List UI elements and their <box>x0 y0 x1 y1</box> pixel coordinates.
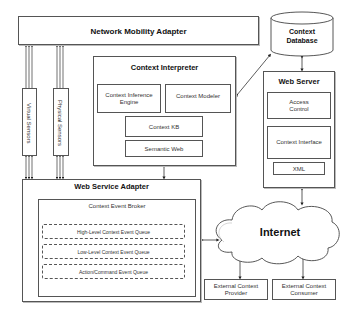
low-level-queue-label: Low-Level Context Event Queue <box>43 249 184 256</box>
web-service-adapter-title: Web Service Adapter <box>23 182 200 191</box>
context-kb: Context KB <box>125 116 203 137</box>
context-inference-engine: Context Inference Engine <box>97 84 161 113</box>
access-control: Access Control <box>267 92 331 119</box>
context-modeler: Context Modeler <box>165 84 231 113</box>
external-context-provider: External Context Provider <box>204 279 268 300</box>
network-mobility-adapter: Network Mobility Adapter <box>18 16 259 45</box>
external-context-provider-label: External Context Provider <box>211 283 261 297</box>
physical-sensors: Physical Sensors <box>53 88 69 156</box>
xml: XML <box>273 162 325 175</box>
context-inference-engine-label: Context Inference Engine <box>104 92 154 106</box>
context-interface-label: Context Interface <box>268 139 330 146</box>
virtual-sensors: Virtual Sensors <box>22 88 37 156</box>
physical-sensors-label: Physical Sensors <box>57 93 63 153</box>
high-level-context-event-queue: High-Level Context Event Queue <box>42 224 185 239</box>
context-interpreter-title: Context Interpreter <box>94 63 235 72</box>
xml-label: XML <box>274 166 324 173</box>
access-control-label: Access Control <box>282 99 316 113</box>
context-event-broker-label: Context Event Broker <box>39 203 195 210</box>
external-context-consumer: External Context Consumer <box>272 279 336 300</box>
high-level-queue-label: High-Level Context Event Queue <box>43 229 184 236</box>
semantic-web: Semantic Web <box>125 140 203 157</box>
context-database-label: Context Database <box>280 27 324 45</box>
action-command-event-queue: Action/Command Event Queue <box>42 264 185 279</box>
context-modeler-label: Context Modeler <box>166 93 230 100</box>
virtual-sensors-label: Virtual Sensors <box>26 95 32 151</box>
context-interface: Context Interface <box>267 126 331 159</box>
semantic-web-label: Semantic Web <box>126 146 202 153</box>
web-server-title: Web Server <box>264 77 334 86</box>
external-context-consumer-label: External Context Consumer <box>279 283 329 297</box>
action-command-queue-label: Action/Command Event Queue <box>43 269 184 276</box>
context-kb-label: Context KB <box>126 124 202 131</box>
low-level-context-event-queue: Low-Level Context Event Queue <box>42 244 185 259</box>
internet-label: Internet <box>240 226 320 238</box>
network-mobility-adapter-label: Network Mobility Adapter <box>19 27 258 36</box>
